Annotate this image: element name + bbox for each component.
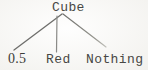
node-nothing: Nothing	[86, 53, 143, 66]
edge-cube-to-0-5	[14, 14, 62, 50]
edge-cube-to-red	[57, 16, 58, 52]
node-0-5: 0.5	[8, 52, 26, 66]
edge-cube-to-nothing	[63, 14, 106, 47]
node-cube: Cube	[52, 1, 85, 14]
node-red: Red	[46, 53, 71, 66]
tree-diagram: Cube 0.5 Red Nothing	[0, 0, 148, 70]
